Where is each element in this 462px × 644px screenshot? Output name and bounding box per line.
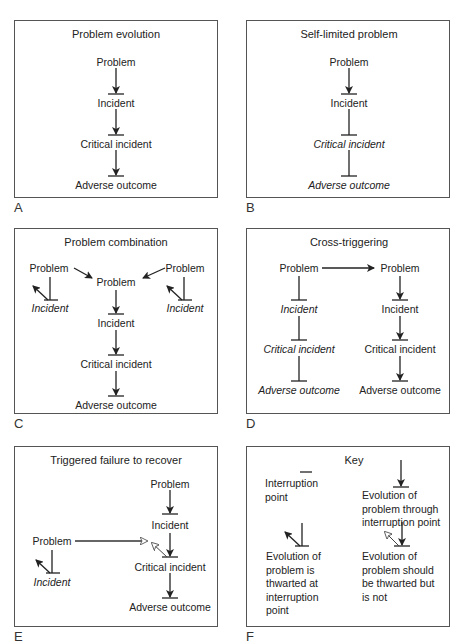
- panel-d-right-problem: Problem: [380, 262, 419, 274]
- panel-d-left-incident: Incident: [281, 303, 318, 315]
- panel-c-node-problem: Problem: [96, 276, 135, 288]
- panel-c-node-critical-incident: Critical incident: [80, 358, 151, 370]
- panel-e-node-adverse-outcome: Adverse outcome: [129, 601, 211, 613]
- panel-e-node-problem: Problem: [150, 478, 189, 490]
- panel-b-node-adverse-outcome: Adverse outcome: [308, 179, 390, 191]
- panel-e-left-incident: Incident: [34, 576, 71, 588]
- panel-f-title: Key: [345, 454, 364, 466]
- key-evolution-thwarted: Evolution of problem is thwarted at inte…: [266, 550, 321, 618]
- panel-c-title: Problem combination: [64, 236, 167, 248]
- panel-d-left-adverse-outcome: Adverse outcome: [258, 384, 340, 396]
- panel-a-node-incident: Incident: [98, 97, 135, 109]
- panel-d-left-critical-incident: Critical incident: [263, 343, 334, 355]
- panel-b-title: Self-limited problem: [300, 28, 397, 40]
- panel-d-left-problem: Problem: [279, 262, 318, 274]
- panel-a-node-adverse-outcome: Adverse outcome: [75, 179, 157, 191]
- panel-e-node-incident: Incident: [152, 519, 189, 531]
- panel-b-node-critical-incident: Critical incident: [313, 138, 384, 150]
- panel-c-left-incident: Incident: [32, 302, 69, 314]
- panel-b-node-incident: Incident: [331, 97, 368, 109]
- panel-d-title: Cross-triggering: [310, 236, 388, 248]
- panel-a-node-problem: Problem: [96, 56, 135, 68]
- panel-d-right-incident: Incident: [382, 303, 419, 315]
- panel-c-node-adverse-outcome: Adverse outcome: [75, 399, 157, 411]
- panel-a-node-critical-incident: Critical incident: [80, 138, 151, 150]
- panel-e-node-critical-incident: Critical incident: [134, 561, 205, 573]
- panel-d-right-adverse-outcome: Adverse outcome: [359, 384, 441, 396]
- diagram-arrows: [0, 0, 462, 644]
- panel-e-left-problem: Problem: [32, 535, 71, 547]
- panel-c-left-problem: Problem: [29, 262, 68, 274]
- panel-a-title: Problem evolution: [72, 28, 160, 40]
- panel-c-right-incident: Incident: [167, 302, 204, 314]
- key-interruption-point: Interruption point: [265, 477, 318, 504]
- panel-c-right-problem: Problem: [165, 262, 204, 274]
- key-evolution-through: Evolution of problem through interruptio…: [362, 489, 440, 530]
- panel-b-node-problem: Problem: [329, 56, 368, 68]
- panel-e-title: Triggered failure to recover: [50, 454, 182, 466]
- panel-c-node-incident: Incident: [98, 317, 135, 329]
- key-evolution-not-thwarted: Evolution of problem should be thwarted …: [362, 550, 434, 604]
- panel-d-right-critical-incident: Critical incident: [364, 343, 435, 355]
